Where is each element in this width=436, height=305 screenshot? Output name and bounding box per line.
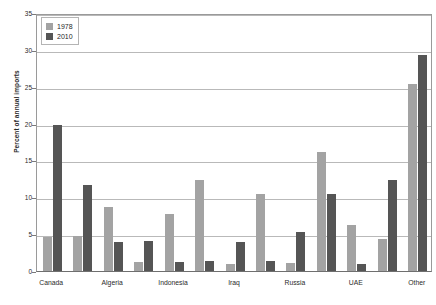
bar-2010 <box>53 125 62 271</box>
plot-area <box>36 14 432 272</box>
bar-2010 <box>175 262 184 271</box>
bar-1978 <box>408 84 417 271</box>
x-tick-label-uae: UAE <box>349 279 363 286</box>
x-tick-label-russia: Russia <box>285 279 306 286</box>
legend-label-1978: 1978 <box>57 22 73 31</box>
bar-1978 <box>347 225 356 271</box>
bar-1978 <box>195 180 204 271</box>
x-tick-label-canada: Canada <box>39 279 63 286</box>
bar-1978 <box>165 214 174 271</box>
bar-1978 <box>286 263 295 271</box>
y-tick-label-35: 35 <box>14 10 32 17</box>
legend: 1978 2010 <box>41 17 79 45</box>
bar-1978 <box>378 239 387 271</box>
bar-2010 <box>83 185 92 271</box>
x-tick-label-other: Other <box>408 279 425 286</box>
bar-1978 <box>73 236 82 271</box>
bar-group <box>408 15 427 271</box>
bar-1978 <box>43 237 52 271</box>
y-tick-label-20: 20 <box>14 121 32 128</box>
bar-1978 <box>317 152 326 271</box>
x-tick-label-indonesia: Indonesia <box>158 279 187 286</box>
y-tick-mark-20 <box>32 125 36 126</box>
y-tick-label-10: 10 <box>14 194 32 201</box>
bars-layer <box>37 15 431 271</box>
bar-group <box>165 15 184 271</box>
y-tick-label-30: 30 <box>14 47 32 54</box>
bar-group <box>43 15 62 271</box>
bar-2010 <box>266 261 275 271</box>
y-tick-mark-5 <box>32 235 36 236</box>
bar-1978 <box>256 194 265 271</box>
y-tick-label-15: 15 <box>14 157 32 164</box>
y-tick-mark-0 <box>32 272 36 273</box>
legend-item-1978: 1978 <box>46 21 73 31</box>
y-tick-mark-30 <box>32 51 36 52</box>
bar-2010 <box>418 55 427 271</box>
bar-group <box>134 15 153 271</box>
x-tick-label-iraq: Iraq <box>228 279 240 286</box>
bar-2010 <box>296 232 305 271</box>
bar-group <box>256 15 275 271</box>
y-tick-mark-25 <box>32 88 36 89</box>
bar-2010 <box>327 194 336 271</box>
bar-2010 <box>205 261 214 271</box>
legend-swatch-2010-icon <box>46 33 53 40</box>
bar-2010 <box>357 264 366 271</box>
bar-group <box>317 15 336 271</box>
bar-1978 <box>226 264 235 271</box>
bar-group <box>195 15 214 271</box>
bar-group <box>347 15 366 271</box>
bar-1978 <box>104 207 113 271</box>
bar-group <box>104 15 123 271</box>
bar-1978 <box>134 262 143 271</box>
bar-2010 <box>236 242 245 271</box>
y-tick-mark-35 <box>32 14 36 15</box>
bar-2010 <box>114 242 123 271</box>
bar-2010 <box>388 180 397 271</box>
y-tick-mark-10 <box>32 198 36 199</box>
y-tick-label-5: 5 <box>14 231 32 238</box>
bar-group <box>73 15 92 271</box>
legend-swatch-1978-icon <box>46 23 53 30</box>
bar-group <box>286 15 305 271</box>
x-tick-label-algeria: Algeria <box>102 279 123 286</box>
y-tick-mark-15 <box>32 161 36 162</box>
bar-group <box>378 15 397 271</box>
y-tick-label-25: 25 <box>14 84 32 91</box>
bar-chart: Percent of annual imports 05101520253035… <box>0 0 436 305</box>
legend-label-2010: 2010 <box>57 32 73 41</box>
bar-2010 <box>144 241 153 271</box>
legend-item-2010: 2010 <box>46 31 73 41</box>
bar-group <box>226 15 245 271</box>
y-tick-label-0: 0 <box>14 268 32 275</box>
